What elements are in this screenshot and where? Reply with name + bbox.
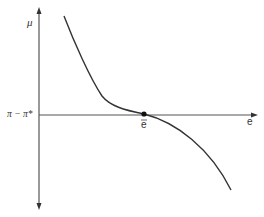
y-axis [37, 7, 42, 210]
x-axis-label: e [247, 117, 253, 127]
mu-curve [64, 16, 231, 190]
diagram-canvas [0, 0, 264, 217]
y-axis-down-arrow-icon [37, 203, 42, 210]
y-axis-label: μ [27, 17, 33, 28]
y-intercept-label: π − π* [7, 110, 32, 120]
y-axis-up-arrow-icon [37, 7, 42, 14]
equilibrium-point [141, 111, 146, 116]
equilibrium-label: e [141, 120, 147, 130]
